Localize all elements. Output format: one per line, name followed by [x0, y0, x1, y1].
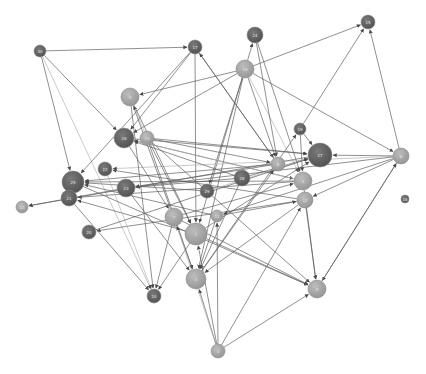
- node-15[interactable]: 15: [361, 15, 375, 29]
- node-12[interactable]: 12: [297, 192, 313, 208]
- edge-30-to-26: [44, 55, 116, 130]
- edge-19-to-27: [304, 134, 312, 145]
- node-layer: 3017241518926141927862225212329284121613…: [16, 15, 409, 358]
- node-label: 15: [365, 20, 371, 25]
- node-1[interactable]: 1: [185, 223, 207, 245]
- node-label: 2: [217, 349, 220, 354]
- node-label: 6: [400, 154, 403, 159]
- node-label: 3: [195, 277, 198, 282]
- node-label: 1: [195, 232, 198, 237]
- node-29[interactable]: 29: [200, 184, 214, 198]
- node-label: 20: [86, 230, 92, 235]
- node-label: 16: [402, 197, 408, 202]
- node-label: 8: [277, 162, 280, 167]
- node-label: 28: [239, 176, 245, 181]
- edge-18-to-26: [134, 73, 238, 132]
- node-label: 13: [19, 205, 25, 210]
- node-label: 26: [121, 136, 127, 141]
- node-label: 9: [129, 95, 132, 100]
- node-9[interactable]: 9: [121, 88, 139, 106]
- node-14[interactable]: 14: [140, 131, 154, 145]
- node-label: 25: [70, 180, 76, 185]
- node-17[interactable]: 17: [188, 40, 202, 54]
- edge-2-to-11: [217, 223, 218, 344]
- node-13[interactable]: 13: [16, 201, 28, 213]
- node-6[interactable]: 6: [393, 148, 409, 164]
- edge-18-to-9: [140, 71, 237, 95]
- edge-14-to-3: [149, 145, 192, 269]
- node-label: 30: [37, 49, 43, 54]
- edge-29-to-25: [85, 183, 200, 191]
- node-30[interactable]: 30: [34, 45, 46, 57]
- node-label: 12: [302, 198, 308, 203]
- node-label: 29: [204, 189, 210, 194]
- node-label: 21: [66, 196, 72, 201]
- node-4[interactable]: 4: [294, 172, 312, 190]
- node-23[interactable]: 23: [117, 179, 135, 197]
- node-19[interactable]: 19: [294, 123, 306, 135]
- edge-11-to-12: [223, 202, 296, 215]
- node-27[interactable]: 27: [308, 143, 332, 167]
- node-label: 17: [192, 45, 198, 50]
- edge-21-to-10: [74, 204, 149, 290]
- node-28[interactable]: 28: [234, 170, 250, 186]
- edge-2-to-5: [224, 294, 309, 347]
- node-label: 18: [242, 67, 248, 72]
- node-7[interactable]: 7: [165, 208, 183, 226]
- node-label: 14: [144, 136, 150, 141]
- edge-12-to-5: [306, 208, 316, 279]
- node-2[interactable]: 2: [211, 344, 225, 358]
- node-label: 24: [252, 33, 258, 38]
- edge-3-to-19: [202, 135, 296, 271]
- node-21[interactable]: 21: [61, 190, 77, 206]
- node-label: 7: [173, 215, 176, 220]
- edge-18-to-8: [248, 78, 275, 157]
- edge-5-to-6: [322, 164, 396, 282]
- node-25[interactable]: 25: [62, 171, 84, 193]
- edge-24-to-8: [256, 43, 276, 156]
- edge-6-to-15: [370, 30, 399, 148]
- edge-26-to-7: [129, 146, 168, 208]
- node-label: 19: [297, 127, 303, 132]
- edge-30-to-25: [41, 57, 70, 171]
- node-24[interactable]: 24: [247, 27, 263, 43]
- node-label: 22: [102, 167, 108, 172]
- node-8[interactable]: 8: [271, 157, 285, 171]
- node-label: 5: [316, 287, 319, 292]
- node-16[interactable]: 16: [401, 195, 409, 203]
- edge-23-to-3: [131, 195, 189, 270]
- edge-14-to-9: [134, 106, 144, 131]
- node-label: 23: [123, 186, 129, 191]
- edge-6-to-27: [333, 155, 393, 156]
- edge-30-to-17: [46, 47, 187, 51]
- node-label: 11: [214, 214, 220, 219]
- network-graph: 3017241518926141927862225212329284121613…: [0, 0, 426, 374]
- node-label: 10: [151, 294, 157, 299]
- node-20[interactable]: 20: [82, 225, 96, 239]
- node-10[interactable]: 10: [147, 289, 161, 303]
- edge-7-to-10: [156, 226, 172, 289]
- node-3[interactable]: 3: [186, 269, 206, 289]
- edge-9-to-3: [133, 105, 192, 268]
- node-18[interactable]: 18: [236, 60, 254, 78]
- node-22[interactable]: 22: [98, 162, 112, 176]
- edge-9-to-1: [134, 105, 191, 223]
- edge-layer: [29, 25, 399, 347]
- node-26[interactable]: 26: [114, 128, 134, 148]
- node-11[interactable]: 11: [211, 210, 223, 222]
- node-5[interactable]: 5: [308, 280, 326, 298]
- node-label: 4: [302, 179, 305, 184]
- node-label: 27: [317, 153, 323, 158]
- edge-18-to-24: [248, 44, 253, 61]
